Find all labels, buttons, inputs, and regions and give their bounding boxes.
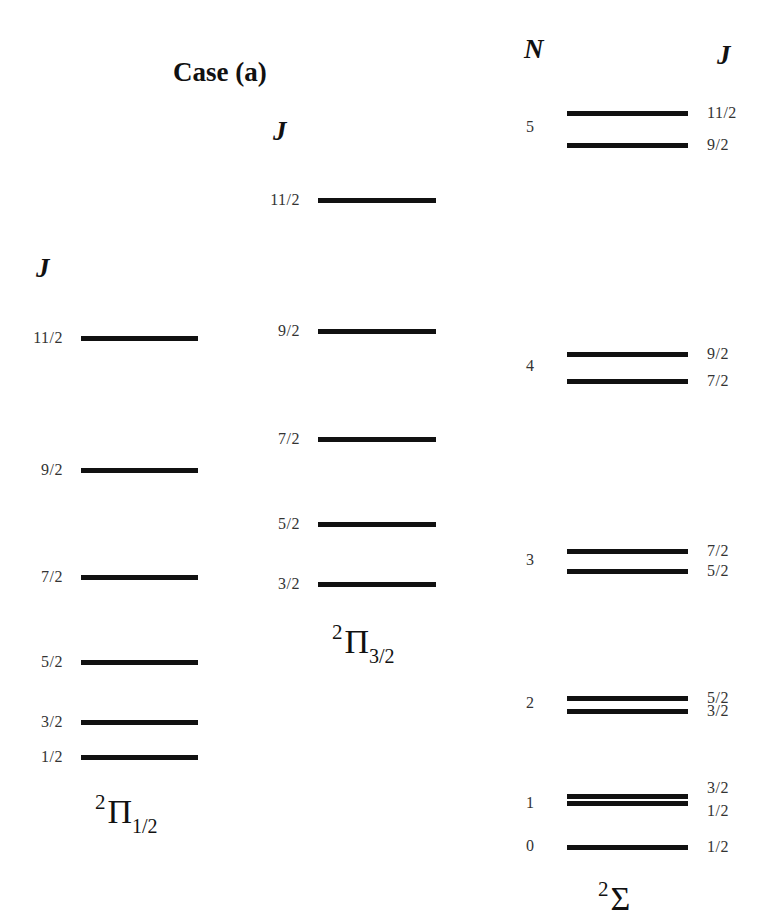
sigma-level-line — [567, 143, 688, 148]
pi-half-j-label: 9/2 — [41, 462, 63, 478]
pi-three-half-symbol: Π — [345, 623, 370, 660]
sigma-j-label: 3/2 — [707, 703, 729, 719]
pi-half-j-label: 7/2 — [41, 569, 63, 585]
sigma-symbol: Σ — [611, 880, 631, 917]
pi-three-half-multiplicity: 2 — [332, 620, 343, 644]
sigma-n-label: 4 — [526, 358, 535, 374]
sigma-j-label: 7/2 — [707, 543, 729, 559]
sigma-multiplicity: 2 — [598, 877, 609, 901]
sigma-level-line — [567, 801, 688, 806]
pi-half-j-label: 5/2 — [41, 654, 63, 670]
pi-half-level-line — [81, 575, 198, 580]
pi-half-level-line — [81, 336, 198, 341]
pi-half-omega: 1/2 — [132, 815, 158, 837]
sigma-n-label: 3 — [526, 552, 535, 568]
pi-three-half-level-line — [318, 522, 436, 527]
sigma-level-line — [567, 352, 688, 357]
pi-three-half-term-symbol: 2Π3/2 — [332, 615, 395, 673]
sigma-level-line — [567, 549, 688, 554]
sigma-level-line — [567, 709, 688, 714]
sigma-level-line — [567, 794, 688, 799]
sigma-n-label: 2 — [526, 695, 535, 711]
pi-three-half-j-label: 5/2 — [278, 516, 300, 532]
pi-three-half-omega: 3/2 — [369, 645, 395, 667]
pi-half-level-line — [81, 755, 198, 760]
sigma-j-header: J — [717, 40, 731, 71]
sigma-j-label: 9/2 — [707, 137, 729, 153]
pi-half-level-line — [81, 468, 198, 473]
pi-three-half-j-label: 11/2 — [270, 192, 300, 208]
sigma-j-label: 1/2 — [707, 803, 729, 819]
sigma-level-line — [567, 569, 688, 574]
sigma-term-symbol: 2Σ — [598, 872, 630, 916]
sigma-n-label: 0 — [526, 838, 535, 854]
sigma-level-line — [567, 696, 688, 701]
sigma-n-label: 1 — [526, 795, 535, 811]
pi-half-level-line — [81, 660, 198, 665]
sigma-j-label: 3/2 — [707, 780, 729, 796]
sigma-n-label: 5 — [526, 119, 535, 135]
diagram-title: Case (a) — [173, 57, 267, 88]
pi-half-term-symbol: 2Π1/2 — [95, 785, 158, 843]
sigma-j-label: 7/2 — [707, 373, 729, 389]
sigma-j-label: 9/2 — [707, 346, 729, 362]
sigma-level-line — [567, 111, 688, 116]
pi-half-symbol: Π — [108, 793, 133, 830]
pi-half-j-label: 1/2 — [41, 749, 63, 765]
sigma-n-header: N — [524, 34, 544, 65]
pi-three-half-j-header: J — [273, 116, 287, 147]
pi-half-j-header: J — [36, 253, 50, 284]
sigma-j-label: 5/2 — [707, 563, 729, 579]
pi-three-half-level-line — [318, 198, 436, 203]
pi-three-half-level-line — [318, 329, 436, 334]
sigma-j-label: 11/2 — [707, 105, 737, 121]
pi-three-half-j-label: 3/2 — [278, 576, 300, 592]
pi-half-multiplicity: 2 — [95, 790, 106, 814]
pi-half-level-line — [81, 720, 198, 725]
pi-half-j-label: 11/2 — [33, 330, 63, 346]
sigma-level-line — [567, 845, 688, 850]
pi-three-half-level-line — [318, 437, 436, 442]
pi-three-half-j-label: 9/2 — [278, 323, 300, 339]
pi-three-half-j-label: 7/2 — [278, 431, 300, 447]
sigma-level-line — [567, 379, 688, 384]
pi-half-j-label: 3/2 — [41, 714, 63, 730]
sigma-j-label: 1/2 — [707, 839, 729, 855]
pi-three-half-level-line — [318, 582, 436, 587]
